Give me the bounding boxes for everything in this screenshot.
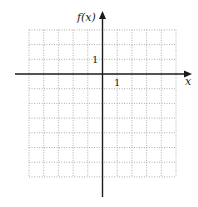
x-tick-label: 1 <box>114 77 120 88</box>
coordinate-grid-chart: f(x) x 1 1 <box>0 0 198 207</box>
x-axis-label: x <box>185 75 192 88</box>
y-axis-arrow-icon <box>99 11 106 19</box>
y-axis-label: f(x) <box>76 11 96 24</box>
y-tick-label: 1 <box>92 54 98 65</box>
